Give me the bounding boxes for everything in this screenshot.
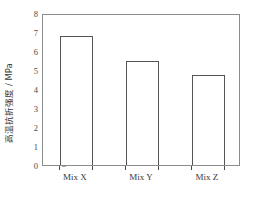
plot-area xyxy=(42,14,240,166)
y-axis-tick-label: 8 xyxy=(34,10,38,19)
y-axis-tick-label: 5 xyxy=(34,67,38,76)
x-axis-tick-mark xyxy=(224,166,225,170)
y-axis-tick-label: 0 xyxy=(34,162,38,171)
y-axis-tick-label: 7 xyxy=(34,29,38,38)
y-axis-tick-label: 2 xyxy=(34,124,38,133)
x-axis-tick-mark xyxy=(92,166,93,170)
x-axis-category-label: Mix X xyxy=(63,172,87,182)
y-axis-tick-label: 4 xyxy=(34,86,38,95)
bar xyxy=(126,61,159,165)
x-axis-category-labels: Mix XMix YMix Z xyxy=(42,172,240,188)
y-axis-tick-label: 3 xyxy=(34,105,38,114)
bar-series xyxy=(43,15,239,165)
x-axis-tick-mark xyxy=(191,166,192,170)
bar xyxy=(60,36,93,165)
x-axis-category-label: Mix Y xyxy=(129,172,152,182)
x-axis-tick-mark xyxy=(59,166,60,170)
bar-chart-figure: 高温抗折强度 / MPa 012345678 Mix XMix YMix Z xyxy=(0,0,259,206)
x-axis-tick-marks xyxy=(42,166,240,171)
x-axis-category-label: Mix Z xyxy=(196,172,219,182)
y-axis-tick-label: 1 xyxy=(34,143,38,152)
bar xyxy=(192,75,225,165)
x-axis-tick-mark xyxy=(158,166,159,170)
y-axis-title: 高温抗折强度 / MPa xyxy=(0,0,16,206)
y-axis-tick-labels: 012345678 xyxy=(24,14,38,166)
x-axis-tick-mark xyxy=(125,166,126,170)
y-axis-tick-label: 6 xyxy=(34,48,38,57)
